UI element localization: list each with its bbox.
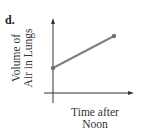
x-axis-label-line2: Noon [65, 118, 125, 130]
x-axis-arrow-icon [128, 91, 134, 95]
end-point [112, 34, 116, 38]
x-axis-label-line1: Time after [65, 106, 125, 118]
start-point [51, 66, 55, 70]
data-line [53, 36, 114, 68]
x-axis-label: Time after Noon [65, 106, 125, 130]
y-axis-arrow-icon [51, 18, 55, 24]
